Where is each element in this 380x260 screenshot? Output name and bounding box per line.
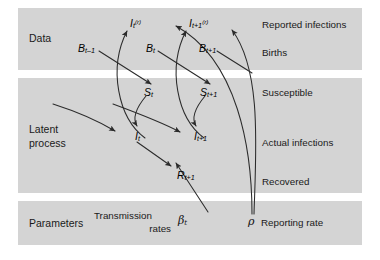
node-B-t: Bt <box>146 43 155 54</box>
node-superscript: (r) <box>202 18 208 25</box>
greek-subscript: t <box>184 219 187 227</box>
category-label-latent-line2: process <box>29 138 66 149</box>
param-transmission-rates-line2: rates <box>94 224 171 234</box>
node-base: B <box>146 42 153 54</box>
param-rho-symbol: ρ <box>248 216 254 227</box>
edge-Bt1prev-to-St <box>99 51 151 84</box>
node-base: S <box>200 86 207 98</box>
edge-It-to-Rt1 <box>137 142 171 166</box>
node-I-t1-reported: It+1(r) <box>189 18 208 29</box>
category-label-data: Data <box>29 33 51 44</box>
node-subscript: t <box>151 90 153 99</box>
row-label-births: Births <box>262 48 287 58</box>
node-subscript: t–1 <box>85 46 95 55</box>
node-base: S <box>144 86 151 98</box>
edge-St-to-It <box>135 96 146 126</box>
edge-prev-to-It <box>53 104 115 131</box>
node-superscript: (r) <box>135 18 141 25</box>
row-label-susceptible: Susceptible <box>262 88 313 98</box>
node-subscript: t <box>153 46 155 55</box>
node-S-t1: St+1 <box>200 87 217 98</box>
node-I-t: It <box>135 131 140 142</box>
node-I-t-reported: It(r) <box>130 18 141 29</box>
node-subscript: t+1 <box>197 134 207 143</box>
edge-St1-to-It1 <box>194 96 205 126</box>
edge-rho-to-It1-reported <box>232 30 256 214</box>
node-B-t1: Bt+1 <box>199 43 216 54</box>
param-reporting-rate-label: Reporting rate <box>261 218 323 228</box>
node-subscript: t+1 <box>206 46 216 55</box>
edge-It-to-It-reported <box>117 31 145 138</box>
row-label-actual-infections: Actual infections <box>262 138 333 148</box>
node-subscript: t <box>138 134 140 143</box>
figure-canvas: Data Latent process Parameters Reported … <box>0 0 380 260</box>
param-beta-symbol: βt <box>178 215 187 227</box>
node-subscript: t+1 <box>207 90 217 99</box>
node-base: R <box>177 169 185 181</box>
param-transmission-rates-line1: Transmission <box>94 211 152 221</box>
row-label-recovered: Recovered <box>262 177 309 187</box>
node-base: B <box>78 42 85 54</box>
node-S-t: St <box>144 87 153 98</box>
category-label-latent-line1: Latent <box>29 124 58 135</box>
node-B-t-1: Bt–1 <box>78 43 95 54</box>
row-label-reported-infections: Reported infections <box>262 20 346 30</box>
node-R-t1: Rt+1 <box>177 170 195 181</box>
node-subscript: t+1 <box>192 21 202 30</box>
category-label-parameters: Parameters <box>29 218 83 229</box>
node-I-t1: It+1 <box>194 131 207 142</box>
node-base: B <box>199 42 206 54</box>
edge-Bt-to-St1 <box>158 51 210 84</box>
node-subscript: t+1 <box>185 173 195 182</box>
